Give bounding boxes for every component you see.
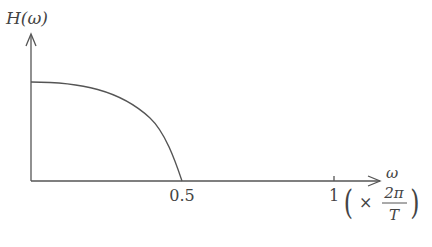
unit-denominator: T xyxy=(389,206,400,224)
unit-close-paren: ) xyxy=(410,183,419,222)
unit-times: × xyxy=(359,193,372,212)
unit-open-paren: ( xyxy=(344,183,353,222)
x-tick-label-half: 0.5 xyxy=(169,186,194,205)
x-tick-label-one: 1 xyxy=(329,186,339,205)
x-unit-label: ( × 2π T ) xyxy=(344,183,420,224)
frequency-response-chart: H(ω) ω 0.5 1 ( × 2π T ) xyxy=(0,0,432,247)
response-curve xyxy=(31,82,182,181)
unit-numerator: 2π xyxy=(383,184,405,202)
x-axis-label: ω xyxy=(386,164,398,182)
y-axis-label: H(ω) xyxy=(5,8,48,28)
